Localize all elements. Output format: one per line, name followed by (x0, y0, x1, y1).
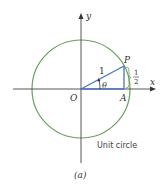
point-P-label: P (123, 55, 131, 65)
point-A-label: A (119, 93, 127, 103)
fraction-denominator: 2 (134, 78, 138, 86)
y-axis-label: y (85, 11, 92, 21)
angle-arc-icon (99, 80, 100, 89)
fraction-numerator: 1 (134, 69, 138, 77)
y-axis-arrow-icon (79, 13, 84, 19)
unit-circle-label: Unit circle (97, 141, 137, 150)
x-axis-label: x (150, 77, 155, 87)
unit-circle-diagram: y x O A P 1 θ 1 2 Unit circle (a) (0, 0, 161, 190)
angle-label: θ (102, 81, 107, 90)
hypotenuse-label: 1 (99, 66, 105, 76)
origin-label: O (70, 93, 78, 103)
figure-caption: (a) (74, 170, 87, 180)
x-axis-arrow-icon (150, 87, 156, 92)
